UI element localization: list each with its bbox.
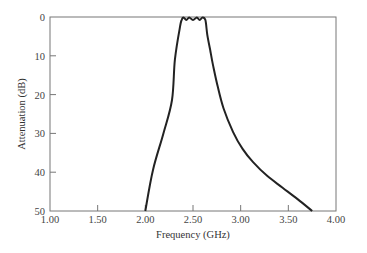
plot-area: 01020304050 1.001.502.002.503.003.504.00	[35, 12, 346, 225]
x-tick-label: 4.00	[327, 214, 345, 225]
x-tick-label: 2.00	[136, 214, 154, 225]
x-tick-label: 1.50	[88, 214, 106, 225]
chart: 01020304050 1.001.502.002.503.003.504.00…	[0, 0, 367, 253]
y-tick-label: 40	[35, 167, 46, 178]
y-axis-label: Attenuation (dB)	[16, 78, 28, 150]
x-tick-label: 2.50	[184, 214, 202, 225]
y-tick-label: 0	[40, 12, 45, 23]
y-tick-label: 30	[35, 128, 46, 139]
y-axis-ticks: 01020304050	[35, 12, 57, 217]
axes-frame	[50, 17, 336, 211]
x-tick-label: 3.50	[279, 214, 297, 225]
x-axis-label: Frequency (GHz)	[156, 229, 230, 241]
x-axis-ticks: 1.001.502.002.503.003.504.00	[41, 205, 345, 225]
x-tick-label: 3.00	[231, 214, 249, 225]
data-line	[145, 17, 312, 211]
x-tick-label: 1.00	[41, 214, 59, 225]
y-tick-label: 20	[35, 90, 46, 101]
y-tick-label: 10	[35, 51, 46, 62]
